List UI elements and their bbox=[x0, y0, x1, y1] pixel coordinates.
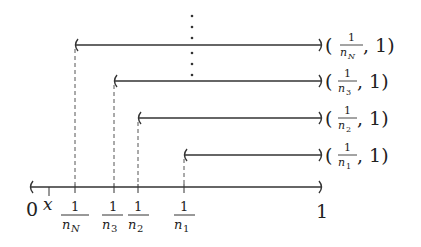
svg-text:1: 1 bbox=[348, 31, 355, 44]
svg-text:, 1): , 1) bbox=[357, 144, 389, 166]
tick-label-nN: 1 n N bbox=[61, 199, 89, 234]
svg-text:(: ( bbox=[325, 107, 332, 129]
svg-text:N: N bbox=[70, 223, 81, 234]
svg-text:1: 1 bbox=[344, 141, 351, 154]
svg-text:(: ( bbox=[325, 144, 332, 166]
svg-text:(: ( bbox=[325, 34, 332, 56]
svg-text:1: 1 bbox=[344, 67, 351, 80]
svg-text:1: 1 bbox=[109, 199, 117, 214]
svg-text:2: 2 bbox=[346, 125, 351, 134]
svg-text:, 1): , 1) bbox=[357, 107, 389, 129]
interval-label-n3: ( 1 n 3 , 1) bbox=[325, 67, 389, 97]
svg-text:n: n bbox=[338, 156, 345, 169]
svg-text:1: 1 bbox=[180, 199, 188, 214]
dashed-guides bbox=[75, 49, 184, 184]
interval-n1 bbox=[184, 149, 322, 161]
tick-label-n2: 1 n 2 bbox=[128, 199, 149, 234]
svg-text:1: 1 bbox=[346, 162, 351, 171]
svg-text:1: 1 bbox=[344, 104, 351, 117]
svg-text:, 1): , 1) bbox=[363, 34, 395, 56]
svg-text:1: 1 bbox=[183, 223, 189, 234]
svg-text:1: 1 bbox=[134, 199, 142, 214]
tick-label-n3: 1 n 3 bbox=[102, 199, 123, 234]
interval-label-nN: ( 1 n N , 1) bbox=[325, 31, 395, 61]
svg-text:n: n bbox=[174, 217, 182, 232]
tick-label-n1: 1 n 1 bbox=[174, 199, 195, 234]
svg-text:n: n bbox=[338, 82, 345, 95]
svg-text:n: n bbox=[128, 217, 136, 232]
unit-interval-axis bbox=[30, 181, 322, 196]
interval-n3 bbox=[114, 75, 322, 87]
interval-label-n1: ( 1 n 1 , 1) bbox=[325, 141, 389, 171]
svg-text:1: 1 bbox=[71, 199, 79, 214]
axis-label-one: 1 bbox=[316, 200, 328, 222]
svg-text:2: 2 bbox=[137, 223, 143, 234]
axis-label-x: x bbox=[43, 194, 53, 214]
svg-text:n: n bbox=[102, 217, 110, 232]
svg-text:(: ( bbox=[325, 70, 332, 92]
interval-n2 bbox=[138, 112, 322, 124]
interval-nN bbox=[75, 39, 322, 51]
axis-label-zero: 0 bbox=[26, 198, 38, 220]
svg-text:3: 3 bbox=[346, 88, 351, 97]
nested-intervals-diagram: 0 x 1 1 n N 1 n 3 1 n 2 1 n 1 ( 1 n N , … bbox=[0, 0, 421, 247]
svg-text:, 1): , 1) bbox=[357, 70, 389, 92]
svg-text:n: n bbox=[62, 217, 70, 232]
svg-text:N: N bbox=[347, 52, 356, 61]
interval-label-n2: ( 1 n 2 , 1) bbox=[325, 104, 389, 134]
svg-text:n: n bbox=[340, 46, 347, 59]
svg-text:3: 3 bbox=[111, 223, 117, 234]
svg-text:n: n bbox=[338, 119, 345, 132]
